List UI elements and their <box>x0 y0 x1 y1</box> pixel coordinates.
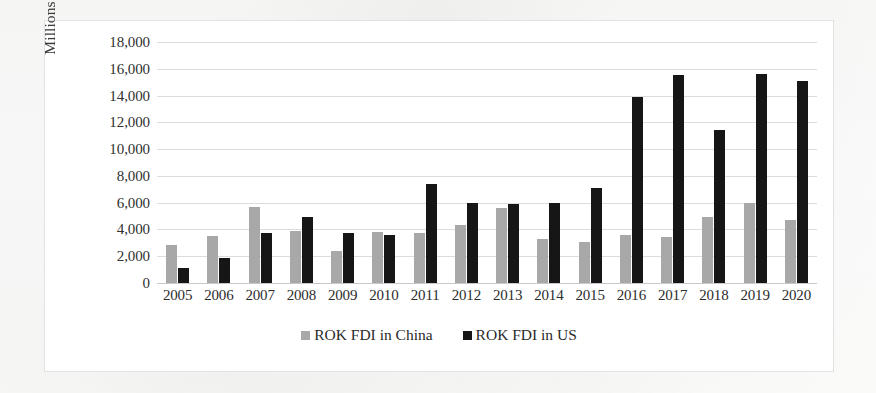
y-tick-label: 12,000 <box>109 114 150 131</box>
bar-us-2014 <box>549 203 560 283</box>
legend-label: ROK FDI in US <box>476 326 577 344</box>
bar-china-2006 <box>207 236 218 283</box>
bar-group-2008 <box>281 42 322 283</box>
bar-us-2005 <box>178 268 189 283</box>
bar-china-2005 <box>166 245 177 283</box>
x-tick-label: 2013 <box>487 287 528 304</box>
legend-swatch-icon <box>301 331 310 340</box>
x-axis-labels: 2005200620072008200920102011201220132014… <box>157 287 817 304</box>
bar-us-2009 <box>343 233 354 283</box>
gridline-0 <box>157 283 817 284</box>
y-tick-label: 10,000 <box>109 141 150 158</box>
bar-group-2010 <box>363 42 404 283</box>
legend-label: ROK FDI in China <box>314 326 432 344</box>
x-tick-label: 2010 <box>363 287 404 304</box>
bar-china-2009 <box>331 251 342 283</box>
y-tick-label: 16,000 <box>109 60 150 77</box>
x-tick-label: 2018 <box>693 287 734 304</box>
bar-us-2019 <box>756 74 767 283</box>
bar-us-2008 <box>302 217 313 283</box>
bar-us-2011 <box>426 184 437 283</box>
chart-frame: Millions of dollars 02,0004,0006,0008,00… <box>44 20 834 372</box>
bar-china-2012 <box>455 225 466 283</box>
x-tick-label: 2020 <box>776 287 817 304</box>
y-tick-label: 0 <box>143 275 150 292</box>
x-tick-label: 2005 <box>157 287 198 304</box>
y-tick-label: 8,000 <box>117 167 150 184</box>
x-tick-label: 2011 <box>405 287 446 304</box>
x-tick-label: 2017 <box>652 287 693 304</box>
bar-us-2010 <box>384 235 395 283</box>
bar-us-2016 <box>632 97 643 283</box>
bar-groups <box>157 42 817 283</box>
bar-group-2006 <box>198 42 239 283</box>
x-tick-label: 2019 <box>735 287 776 304</box>
bar-china-2014 <box>537 239 548 283</box>
bar-group-2013 <box>487 42 528 283</box>
bar-china-2007 <box>249 207 260 283</box>
bar-group-2005 <box>157 42 198 283</box>
bar-china-2015 <box>579 242 590 284</box>
bar-us-2017 <box>673 75 684 283</box>
y-axis-title: Millions of dollars <box>41 0 65 81</box>
bar-us-2013 <box>508 204 519 283</box>
bar-us-2006 <box>219 258 230 283</box>
y-tick-label: 14,000 <box>109 87 150 104</box>
y-tick-label: 18,000 <box>109 34 150 51</box>
scanned-figure-page: Millions of dollars 02,0004,0006,0008,00… <box>0 0 876 393</box>
bar-group-2009 <box>322 42 363 283</box>
bar-us-2018 <box>714 130 725 283</box>
bar-group-2012 <box>446 42 487 283</box>
x-tick-label: 2006 <box>198 287 239 304</box>
bar-group-2007 <box>240 42 281 283</box>
legend-item-china[interactable]: ROK FDI in China <box>301 326 432 344</box>
bar-us-2015 <box>591 188 602 283</box>
bar-china-2011 <box>414 233 425 283</box>
bar-china-2010 <box>372 232 383 283</box>
bar-china-2019 <box>744 203 755 283</box>
x-tick-label: 2008 <box>281 287 322 304</box>
legend-swatch-icon <box>463 331 472 340</box>
bar-us-2020 <box>797 81 808 283</box>
bar-group-2019 <box>735 42 776 283</box>
bar-us-2012 <box>467 203 478 283</box>
x-tick-label: 2007 <box>240 287 281 304</box>
bar-us-2007 <box>261 233 272 283</box>
y-tick-label: 4,000 <box>117 221 150 238</box>
y-tick-label: 6,000 <box>117 194 150 211</box>
x-tick-label: 2016 <box>611 287 652 304</box>
x-tick-label: 2009 <box>322 287 363 304</box>
bar-china-2013 <box>496 208 507 283</box>
bar-group-2017 <box>652 42 693 283</box>
bar-group-2020 <box>776 42 817 283</box>
bar-china-2017 <box>661 237 672 283</box>
chart-legend: ROK FDI in ChinaROK FDI in US <box>45 326 833 344</box>
bar-group-2016 <box>611 42 652 283</box>
x-tick-label: 2014 <box>528 287 569 304</box>
bar-group-2011 <box>405 42 446 283</box>
bar-china-2008 <box>290 231 301 283</box>
bar-china-2018 <box>702 217 713 283</box>
bar-group-2014 <box>528 42 569 283</box>
bar-china-2020 <box>785 220 796 283</box>
x-tick-label: 2012 <box>446 287 487 304</box>
bar-china-2016 <box>620 235 631 283</box>
x-tick-label: 2015 <box>570 287 611 304</box>
y-tick-label: 2,000 <box>117 248 150 265</box>
legend-item-us[interactable]: ROK FDI in US <box>463 326 577 344</box>
bar-group-2015 <box>570 42 611 283</box>
plot-area: 02,0004,0006,0008,00010,00012,00014,0001… <box>157 42 817 283</box>
bar-group-2018 <box>693 42 734 283</box>
